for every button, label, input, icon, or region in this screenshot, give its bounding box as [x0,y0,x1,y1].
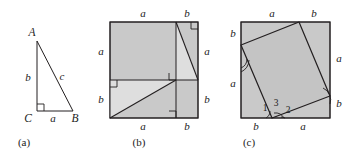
edge-label-b-right-lower: b [204,93,210,105]
figure-canvas: A C B b a c (a) a b a b a [0,0,361,163]
edge-label-c-right-lower: b [336,97,342,109]
edge-label-c-top-right: b [311,7,317,19]
angle-label-3: 3 [274,98,279,108]
edge-label-b-top-left: a [140,7,146,19]
vertex-label-c: C [24,112,32,124]
side-label-a: a [50,112,56,124]
edge-label-c-left-lower: a [230,77,236,89]
edge-label-c-top-left: a [269,7,275,19]
edge-label-b-top-right: b [184,7,190,19]
edge-label-c-right-upper: a [336,52,342,64]
side-label-b: b [25,71,31,83]
edge-label-c-bottom-right: a [300,120,306,132]
caption-a: (a) [18,136,31,149]
edge-label-c-bottom-left: b [253,120,259,132]
angle-label-2: 2 [286,105,291,115]
edge-label-b-right-upper: a [204,45,210,57]
edge-label-b-bottom-left: a [140,120,146,132]
vertex-label-b: B [71,112,78,124]
edge-label-b-left-upper: a [98,45,104,57]
pythagorean-proof-figure: A C B b a c (a) a b a b a [0,0,361,163]
vertex-label-a: A [27,26,36,38]
angle-label-1: 1 [263,103,268,113]
caption-c: (c) [243,136,256,149]
caption-b: (b) [133,136,146,149]
edge-label-c-left-upper: b [230,27,236,39]
edge-label-b-bottom-right: b [184,120,190,132]
side-label-c: c [60,70,65,82]
edge-label-b-left-lower: b [98,93,104,105]
